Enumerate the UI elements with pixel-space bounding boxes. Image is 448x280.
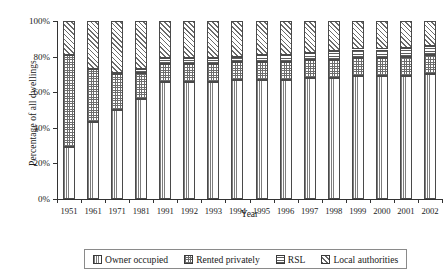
- x-tick-mark: [394, 199, 395, 203]
- bar-segment: [328, 51, 340, 60]
- x-tick-mark: [153, 199, 154, 203]
- bar-column: [159, 21, 171, 199]
- bar-segment: [135, 21, 147, 69]
- bar-segment: [328, 78, 340, 199]
- y-tick-label: 20%: [4, 158, 57, 168]
- bar-segment: [400, 48, 412, 57]
- bar-segment: [304, 53, 316, 60]
- bar-segment: [376, 58, 388, 76]
- y-tick-mark: [53, 163, 57, 164]
- bar-segment: [183, 82, 195, 199]
- bar-column: [231, 21, 243, 199]
- x-tick-mark: [346, 199, 347, 203]
- bar-segment: [207, 21, 219, 58]
- legend-item[interactable]: Owner occupied: [93, 254, 168, 265]
- bar-segment: [424, 55, 436, 75]
- legend-swatch-icon: [321, 255, 330, 264]
- bar-segment: [159, 21, 171, 58]
- x-tick-mark: [225, 199, 226, 203]
- bar-segment: [135, 73, 147, 100]
- x-axis-title: Year: [57, 209, 442, 219]
- legend-item[interactable]: RSL: [276, 254, 306, 265]
- bar-segment: [304, 78, 316, 199]
- legend-label: Local authorities: [333, 254, 398, 265]
- bar-segment: [207, 58, 219, 63]
- bar-segment: [304, 60, 316, 78]
- bar-segment: [256, 55, 268, 62]
- bar-segment: [304, 21, 316, 53]
- bar-column: [328, 21, 340, 199]
- bar-segment: [159, 58, 171, 63]
- bar-column: [280, 21, 292, 199]
- bar-segment: [111, 21, 123, 73]
- y-tick-mark: [53, 92, 57, 93]
- bar-column: [111, 21, 123, 199]
- bar-segment: [183, 21, 195, 58]
- x-tick-mark: [57, 199, 58, 203]
- y-tick-label: 80%: [4, 52, 57, 62]
- x-tick-mark: [81, 199, 82, 203]
- bar-column: [400, 21, 412, 199]
- bar-segment: [352, 50, 364, 59]
- legend-swatch-icon: [93, 255, 102, 264]
- bar-segment: [135, 99, 147, 199]
- x-tick-mark: [177, 199, 178, 203]
- bar-segment: [87, 69, 99, 122]
- x-tick-mark: [370, 199, 371, 203]
- bar-segment: [159, 82, 171, 199]
- bar-segment: [111, 72, 123, 74]
- y-tick-label: 60%: [4, 87, 57, 97]
- bar-column: [256, 21, 268, 199]
- y-tick-mark: [53, 21, 57, 22]
- bar-segment: [352, 21, 364, 49]
- bar-column: [376, 21, 388, 199]
- stacked-bar-chart: Percentage of all dwellings 0%20%40%60%8…: [0, 0, 448, 280]
- bar-segment: [376, 50, 388, 59]
- bar-segment: [328, 21, 340, 51]
- bar-segment: [231, 57, 243, 62]
- x-tick-mark: [442, 199, 443, 203]
- bar-segment: [183, 58, 195, 63]
- bar-segment: [63, 55, 75, 148]
- y-tick-mark: [53, 57, 57, 58]
- bar-segment: [87, 21, 99, 69]
- bar-segment: [424, 74, 436, 199]
- x-tick-mark: [298, 199, 299, 203]
- x-tick-mark: [129, 199, 130, 203]
- bar-segment: [111, 74, 123, 110]
- bar-column: [424, 21, 436, 199]
- bar-segment: [111, 110, 123, 199]
- legend-item[interactable]: Rented privately: [184, 254, 260, 265]
- bar-segment: [63, 21, 75, 55]
- y-tick-label: 0%: [4, 194, 57, 204]
- chart-legend: Owner occupiedRented privatelyRSLLocal a…: [84, 249, 407, 269]
- bar-column: [183, 21, 195, 199]
- bar-segment: [231, 80, 243, 199]
- bar-segment: [352, 58, 364, 76]
- bar-segment: [280, 21, 292, 55]
- bar-segment: [328, 60, 340, 78]
- x-tick-mark: [322, 199, 323, 203]
- bar-segment: [231, 62, 243, 80]
- bar-column: [207, 21, 219, 199]
- bar-segment: [424, 46, 436, 55]
- bar-segment: [280, 62, 292, 80]
- plot-area: 0%20%40%60%80%100% 195119611971198119911…: [57, 21, 442, 199]
- bar-segment: [400, 76, 412, 199]
- legend-swatch-icon: [276, 255, 285, 264]
- bar-segment: [424, 21, 436, 46]
- bar-segment: [400, 21, 412, 48]
- y-tick-label: 100%: [4, 16, 57, 26]
- bar-segment: [376, 76, 388, 199]
- y-axis-line: [57, 21, 58, 200]
- bar-segment: [135, 69, 147, 73]
- legend-item[interactable]: Local authorities: [321, 254, 398, 265]
- bar-segment: [400, 57, 412, 77]
- bar-segment: [207, 64, 219, 82]
- bar-column: [352, 21, 364, 199]
- x-tick-mark: [201, 199, 202, 203]
- x-tick-mark: [250, 199, 251, 203]
- legend-label: Rented privately: [196, 254, 260, 265]
- legend-label: RSL: [288, 254, 306, 265]
- bar-segment: [352, 76, 364, 199]
